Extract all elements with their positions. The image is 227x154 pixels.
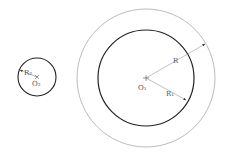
large-circle-group: R R₁ O₁ (77, 9, 215, 147)
center-o1-cross (143, 75, 149, 81)
small-circle-group: R₂ O₂ (18, 58, 56, 96)
radius-r1-label: R₁ (166, 90, 174, 98)
circles-diagram: R₂ O₂ R R₁ O₁ (0, 0, 227, 154)
center-o1-label: O₁ (138, 84, 147, 92)
center-o2-cross (35, 75, 39, 79)
radius-r-label: R (173, 57, 179, 65)
center-o2-label: O₂ (32, 80, 41, 88)
radius-r2-label: R₂ (24, 69, 32, 77)
